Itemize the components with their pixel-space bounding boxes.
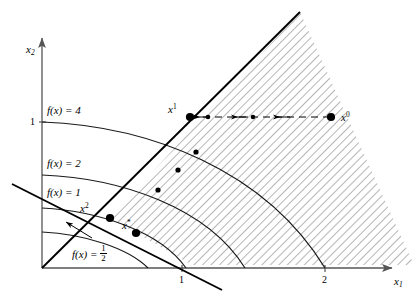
- x-axis-label: x1: [394, 276, 403, 289]
- level-label-f2: f(x) = 2: [47, 158, 81, 169]
- point-label-x2: x2: [80, 202, 89, 214]
- point-x0-dot: [327, 113, 335, 121]
- point-x2-dot: [106, 214, 114, 222]
- y-tick-label-1: 1: [30, 117, 35, 127]
- point-label-x0: x0: [341, 111, 350, 123]
- point-x1-dot: [186, 113, 194, 121]
- one-half-fraction: 12: [100, 244, 106, 263]
- level-label-f1: f(x) = 1: [47, 187, 81, 198]
- y-axis-label: x2: [26, 44, 35, 57]
- x-tick-label-2: 2: [322, 275, 327, 285]
- x-tick-label-1: 1: [179, 275, 184, 285]
- diagram-svg: [0, 0, 414, 296]
- point-label-x1: x1: [168, 103, 177, 115]
- level-label-fhalf: f(x) = 12: [72, 244, 107, 263]
- figure-canvas: x1 x2 1 2 1 f(x) = 4 f(x) = 2 f(x) = 1 f…: [0, 0, 414, 296]
- point-xstar-dot: [132, 229, 140, 237]
- level-label-f4: f(x) = 4: [47, 105, 81, 116]
- point-label-xstar: x*: [122, 219, 131, 231]
